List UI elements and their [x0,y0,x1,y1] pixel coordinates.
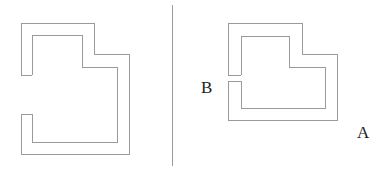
right-figure-inner-wall [241,36,325,108]
left-figure [21,23,129,154]
right-figure [228,23,337,120]
right-figure-outer-wall [228,23,337,120]
diagram-canvas [0,0,388,170]
left-figure-inner-wall [32,35,117,142]
label-a: A [357,124,369,141]
left-figure-outer-wall [21,23,129,154]
label-b: B [201,79,212,96]
